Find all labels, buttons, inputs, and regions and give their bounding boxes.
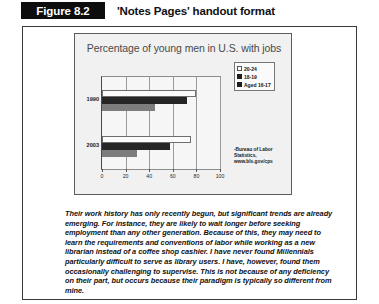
chart-legend: 20-2418-19Aged 16-17 (234, 62, 275, 91)
handout-page: Percentage of young men in U.S. with job… (22, 26, 357, 300)
notes-paragraph-text: Their work history has only recently beg… (65, 209, 335, 295)
x-axis-tick-label: 60 (170, 173, 176, 179)
x-axis-tick-label: 0 (101, 173, 104, 179)
x-axis-tick-label: 80 (194, 173, 200, 179)
x-axis-tick (102, 169, 103, 172)
chart-title: Percentage of young men in U.S. with job… (83, 42, 285, 55)
figure-caption: 'Notes Pages' handout format (117, 2, 275, 19)
legend-item: 18-19 (237, 73, 271, 80)
x-axis-tick (220, 169, 221, 172)
x-axis-tick (126, 169, 127, 172)
legend-label: 18-19 (244, 74, 257, 80)
notes-paragraph: Their work history has only recently beg… (65, 209, 335, 295)
chart-bar (102, 150, 137, 157)
chart-bar (102, 143, 170, 150)
x-axis-tick-label: 40 (146, 173, 152, 179)
chart-bar (102, 97, 187, 104)
figure-number-tag: Figure 8.2 (21, 2, 105, 19)
x-axis-tick (173, 169, 174, 172)
legend-label: 20-24 (244, 66, 257, 72)
y-axis-category-label: 2003 (87, 142, 99, 148)
legend-swatch (237, 66, 242, 71)
chart-source-note: -Bureau of Labor Statistics, www.bls.gov… (234, 147, 290, 165)
chart-gridline (196, 77, 197, 169)
x-axis-tick-label: 100 (216, 173, 225, 179)
chart-bar (102, 136, 191, 143)
figure-header: Figure 8.2 'Notes Pages' handout format (0, 0, 379, 22)
y-axis-category-label: 1990 (87, 96, 99, 102)
legend-item: Aged 16-17 (237, 81, 271, 88)
chart-bar (102, 90, 196, 97)
x-axis-tick-label: 20 (123, 173, 129, 179)
chart-plot-area: 02040608010019902003 (101, 76, 221, 170)
legend-swatch (237, 74, 242, 79)
chart-gridline (220, 77, 221, 169)
legend-swatch (237, 82, 242, 87)
chart-bar (102, 104, 155, 111)
x-axis-tick (196, 169, 197, 172)
legend-label: Aged 16-17 (244, 82, 271, 88)
slide-panel: Percentage of young men in U.S. with job… (74, 33, 292, 195)
legend-item: 20-24 (237, 65, 271, 72)
x-axis-tick (149, 169, 150, 172)
